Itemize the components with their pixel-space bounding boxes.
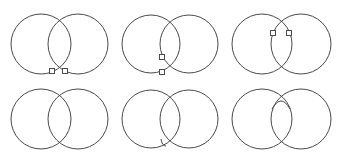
left-circle <box>232 89 292 149</box>
selection-marker-icon <box>271 31 276 36</box>
selection-marker-icon <box>63 69 68 74</box>
right-circle <box>271 14 331 74</box>
panel-row2-col2 <box>122 90 218 148</box>
left-circle <box>11 89 71 149</box>
panel-row2-col1 <box>11 89 108 149</box>
left-circle <box>122 90 180 148</box>
right-circle <box>160 15 218 73</box>
selection-marker-icon <box>50 69 55 74</box>
panel-row1-col3 <box>232 14 331 74</box>
left-circle <box>122 15 180 73</box>
right-circle <box>48 89 108 149</box>
panel-row1-col2 <box>122 15 218 75</box>
panel-row2-col3 <box>232 89 331 149</box>
left-circle <box>11 14 71 74</box>
right-circle <box>271 89 331 149</box>
selection-marker-icon <box>160 55 165 60</box>
fillet-diagram <box>0 0 346 165</box>
right-circle <box>48 14 108 74</box>
right-circle <box>160 90 218 148</box>
left-circle <box>232 14 292 74</box>
circle-pairs-canvas <box>0 0 346 165</box>
selection-marker-icon <box>160 70 165 75</box>
panel-row1-col1 <box>11 14 108 74</box>
selection-marker-icon <box>287 31 292 36</box>
fillet-arc <box>161 139 166 146</box>
